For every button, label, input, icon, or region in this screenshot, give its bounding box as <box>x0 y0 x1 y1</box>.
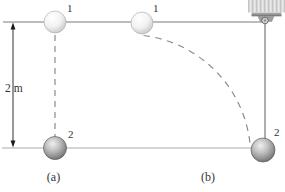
label-a-position-1: 1 <box>67 2 73 14</box>
ceiling-block <box>248 0 285 13</box>
pivot-pin <box>264 20 266 22</box>
label-a-position-2: 2 <box>68 128 74 140</box>
mount-flange <box>252 13 282 17</box>
ball-a-position-1 <box>44 11 66 33</box>
label-b-position-1: 1 <box>153 2 159 14</box>
ceiling-mount <box>248 0 285 24</box>
label-b-position-2: 2 <box>274 126 280 138</box>
ball-b-position-1 <box>131 12 153 34</box>
ball-b-position-2 <box>251 138 275 162</box>
physics-figure: 1 1 2 2 2 m (a) (b) <box>0 0 285 192</box>
caption-a: (a) <box>47 170 60 184</box>
arrow-down-icon <box>11 141 16 148</box>
height-dimension-label: 2 m <box>5 82 23 94</box>
arrow-up-icon <box>11 23 16 30</box>
diagram-canvas: 1 1 2 2 2 m (a) (b) <box>0 0 285 192</box>
ball-a-position-2 <box>44 137 67 160</box>
pendulum-swing-arc <box>144 36 251 144</box>
caption-b: (b) <box>201 170 215 184</box>
